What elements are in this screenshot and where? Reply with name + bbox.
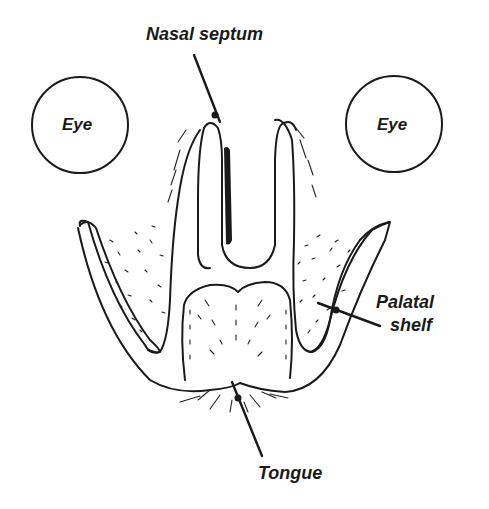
palatal-shelf-label-line1: Palatal [376, 292, 434, 312]
oral-cavity-outline [78, 222, 390, 392]
tongue-leader-tip [235, 395, 242, 402]
eye-right-label: Eye [377, 115, 407, 135]
palatal-shelf-leader-tip [333, 307, 340, 314]
palate-cross-section-diagram: Nasal septum Eye Eye Palatal shelf Tongu… [0, 0, 489, 509]
septum-left-wall [198, 128, 210, 268]
nasal-septum-label: Nasal septum [146, 24, 263, 44]
nasal-septum-leader-tip [212, 112, 219, 119]
nasal-septum-outline [204, 122, 296, 268]
tongue-outline [182, 282, 292, 380]
tongue-leader [232, 382, 262, 456]
diagram-drawing [0, 0, 489, 509]
palatal-shelf-label-line2: shelf [390, 315, 432, 335]
septum-core [224, 147, 232, 245]
eye-left-label: Eye [62, 115, 92, 135]
tongue-label: Tongue [258, 463, 322, 483]
